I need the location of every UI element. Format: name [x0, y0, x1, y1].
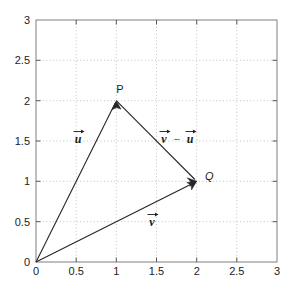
point-label-q: Q — [205, 170, 214, 182]
vector-label-v-minus-u: v − u — [160, 130, 197, 146]
xtick-label-3: 3 — [274, 265, 280, 277]
xtick-label-0.5: 0.5 — [69, 265, 84, 277]
ytick-label-0: 0 — [24, 256, 30, 268]
ytick-label-1: 1 — [24, 175, 30, 187]
ytick-label-2: 2 — [24, 95, 30, 107]
ytick-label-1.5: 1.5 — [15, 135, 30, 147]
vector-label-v-text: v — [149, 215, 155, 229]
plot-canvas: 0 0.5 1 1.5 2 2.5 3 0 0.5 1 1.5 2 2.5 3 — [0, 0, 293, 298]
xtick-label-1.5: 1.5 — [149, 265, 164, 277]
xtick-label-1: 1 — [113, 265, 119, 277]
point-label-p: P — [116, 83, 123, 95]
xtick-label-2: 2 — [194, 265, 200, 277]
vector-diagram-figure: 0 0.5 1 1.5 2 2.5 3 0 0.5 1 1.5 2 2.5 3 — [0, 0, 293, 298]
ytick-label-3: 3 — [24, 14, 30, 26]
vector-label-vu-minus-text: − — [174, 132, 181, 146]
xtick-label-2.5: 2.5 — [229, 265, 244, 277]
ytick-label-2.5: 2.5 — [15, 54, 30, 66]
vector-label-vu-u-text: u — [187, 132, 194, 146]
vector-label-vu-v-text: v — [161, 132, 167, 146]
xtick-label-0: 0 — [33, 265, 39, 277]
vector-label-u-text: u — [75, 132, 82, 146]
ytick-label-0.5: 0.5 — [15, 216, 30, 228]
